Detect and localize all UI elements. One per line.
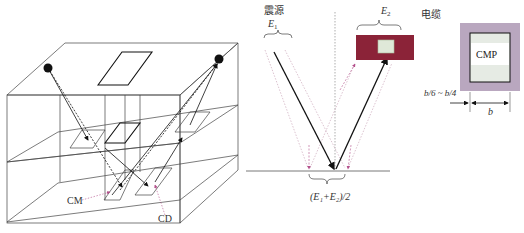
panel-reflection	[246, 12, 414, 184]
panel-3d-block	[7, 43, 238, 223]
label-cmp: CMP	[476, 50, 497, 60]
cable-inner-box	[378, 40, 394, 53]
label-cd: CD	[158, 214, 172, 224]
label-cable: 电缆	[421, 10, 441, 20]
label-midpoint-formula: (E₁+E₂)/2	[310, 192, 350, 202]
label-source: 震源	[264, 6, 284, 16]
label-width-b: b	[488, 107, 493, 117]
label-cm: CM	[67, 196, 83, 206]
panel-cmp	[450, 23, 520, 112]
label-e2: E2	[381, 6, 391, 18]
receiver-dot-right	[215, 55, 224, 64]
label-offset: b/6 ~ b/4	[424, 89, 456, 98]
label-e1: E1	[268, 19, 278, 31]
